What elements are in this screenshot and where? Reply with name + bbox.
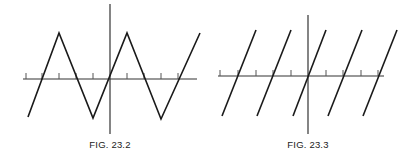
triangle-wave-curve xyxy=(28,33,200,119)
sawtooth-segment xyxy=(222,30,256,116)
sawtooth-segment xyxy=(257,30,291,116)
figure-23-3-sawtooth xyxy=(218,15,397,134)
sawtooth-segment xyxy=(363,30,397,116)
sawtooth-segment xyxy=(328,30,362,116)
figure-23-3-caption: FIG. 23.3 xyxy=(287,139,328,150)
figures-canvas xyxy=(0,0,416,154)
sawtooth-segment xyxy=(293,30,326,116)
figure-23-2-triangle-wave xyxy=(23,4,200,134)
figure-23-2-caption: FIG. 23.2 xyxy=(89,139,130,150)
